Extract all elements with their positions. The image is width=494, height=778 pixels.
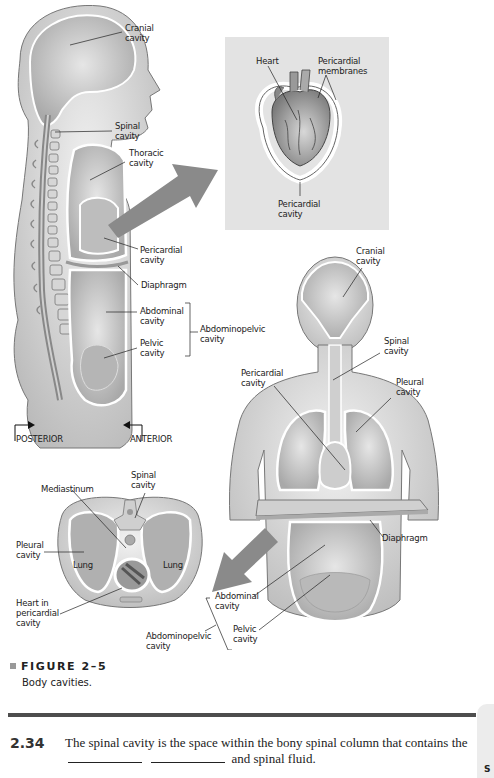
cross-section-drawing [58,497,202,607]
side-tab-letter: S [484,764,490,774]
label-cranial-cavity-side: Cranial cavity [125,23,154,43]
label-pelvic-cavity-side: Pelvic cavity [140,338,164,358]
label-posterior: POSTERIOR [16,434,63,444]
caption-bullet-icon [10,663,16,669]
question-number: 2.34 [10,735,45,751]
question-text-before: The spinal cavity is the space within th… [65,735,468,750]
figure-number-text: FIGURE 2–5 [21,660,107,673]
label-pleural-cavity-front: Pleural cavity [396,377,424,397]
label-diaphragm-side: Diaphragm [141,280,186,290]
label-spinal-cavity-side: Spinal cavity [115,121,140,141]
label-lung-left: Lung [73,560,93,570]
front-view-body [229,257,438,621]
label-pericardial-cavity-front: Pericardial cavity [241,368,283,388]
label-anterior: ANTERIOR [130,434,172,444]
label-spinal-cavity-cross: Spinal cavity [131,470,156,490]
answer-blank-2[interactable] [151,752,225,763]
figure-caption: Body cavities. [22,677,92,688]
label-heart-in-pericardial-cavity: Heart in pericardial cavity [16,598,59,628]
answer-blank-1[interactable] [68,752,142,763]
label-mediastinum: Mediastinum [41,484,94,494]
label-heart: Heart [256,56,279,66]
label-cranial-cavity-front: Cranial cavity [356,246,385,266]
side-view-body [14,5,160,448]
label-abdominal-cavity-front: Abdominal cavity [215,591,259,611]
label-thoracic-cavity: Thoracic cavity [129,148,164,168]
label-abdominopelvic-cavity-front: Abdominopelvic cavity [146,631,211,651]
section-divider [8,713,476,717]
label-pericardial-cavity-side: Pericardial cavity [140,245,182,265]
label-pericardial-cavity-inset: Pericardial cavity [278,199,320,219]
question-text-after: and spinal fluid. [232,751,316,766]
label-pleural-cavity-cross: Pleural cavity [16,540,44,560]
label-abdominopelvic-cavity-side: Abdominopelvic cavity [200,324,265,344]
label-abdominal-cavity-side: Abdominal cavity [140,306,184,326]
label-diaphragm-front: Diaphragm [382,533,427,543]
question-text: The spinal cavity is the space within th… [65,735,475,767]
label-spinal-cavity-front: Spinal cavity [384,336,409,356]
label-lung-right: Lung [163,560,183,570]
label-pericardial-membranes: Pericardial membranes [318,56,367,76]
label-pelvic-cavity-front: Pelvic cavity [233,624,257,644]
figure-number: FIGURE 2–5 [10,660,107,673]
